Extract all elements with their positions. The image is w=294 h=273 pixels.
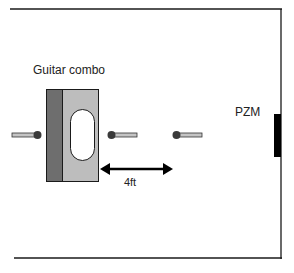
- amp-label: Guitar combo: [33, 63, 105, 77]
- amp-side-panel: [47, 90, 63, 182]
- guitar-combo-amp: [47, 90, 99, 182]
- distance-label: 4ft: [124, 176, 136, 188]
- mic-front-far-icon: [173, 131, 203, 139]
- diagram-canvas: Guitar combo 4ft PZM: [0, 0, 294, 273]
- pzm-label: PZM: [235, 105, 260, 119]
- distance-arrow-icon: [100, 163, 173, 175]
- mic-behind-amp-icon: [12, 131, 42, 139]
- pzm-mic-icon: [274, 114, 281, 157]
- mic-front-close-icon: [108, 131, 138, 139]
- amp-speaker-icon: [71, 110, 95, 161]
